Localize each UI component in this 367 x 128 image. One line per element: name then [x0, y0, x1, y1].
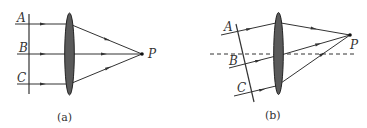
- caption-b: (b): [265, 109, 281, 122]
- lens: [65, 13, 75, 95]
- arrow-icon: [40, 83, 46, 86]
- arrow-icon: [255, 60, 261, 63]
- arrow-icon: [105, 67, 111, 71]
- arrow-icon: [246, 28, 252, 31]
- arrow-icon: [101, 53, 107, 56]
- lens: [274, 13, 284, 95]
- panel-a: A B C P (a): [15, 11, 157, 124]
- label-a: A: [223, 20, 233, 34]
- diagram-canvas: A B C P (a) A B C P (b): [0, 0, 367, 128]
- arrow-icon: [40, 53, 46, 56]
- ray-c-outgoing: [281, 35, 350, 83]
- caption-a: (a): [57, 111, 72, 124]
- label-p: P: [349, 38, 359, 52]
- label-c: C: [17, 71, 26, 85]
- panel-b: A B C P (b): [210, 13, 359, 123]
- label-p: P: [147, 47, 157, 61]
- arrow-icon: [315, 43, 321, 46]
- focus-point: [140, 52, 144, 56]
- label-a: A: [16, 11, 26, 25]
- arrow-icon: [104, 37, 110, 40]
- label-b: B: [18, 41, 28, 55]
- arrow-icon: [40, 23, 46, 26]
- arrow-icon: [259, 89, 265, 92]
- focus-point: [348, 33, 352, 37]
- label-b: B: [228, 54, 238, 68]
- arrow-icon: [311, 27, 317, 30]
- label-c: C: [237, 81, 246, 95]
